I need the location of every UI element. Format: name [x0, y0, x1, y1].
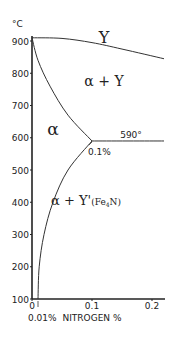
annotation-label: 0.1% [88, 147, 111, 157]
region-label: α + Y [84, 73, 124, 89]
y-axis-label: °C [12, 19, 23, 29]
y-tick-label: 600 [12, 133, 29, 143]
boundary-alpha-solvus [38, 141, 92, 299]
x-tick-label: 0 [29, 301, 35, 311]
y-tick-label: 200 [12, 262, 29, 272]
region-label: α [47, 119, 59, 139]
annotation-label: 0.01% [28, 313, 57, 323]
y-tick-label: 500 [12, 166, 29, 176]
phase-diagram: 100200300400500600700800900°C00.10.2NITR… [0, 0, 177, 337]
annotation-label: 590° [120, 130, 142, 140]
y-tick-label: 900 [12, 37, 29, 47]
x-axis-label: NITROGEN % [62, 313, 121, 323]
region-label: Y [98, 28, 110, 47]
y-tick-label: 300 [12, 230, 29, 240]
y-tick-label: 800 [12, 69, 29, 79]
boundary-alpha-gamma [32, 38, 92, 141]
x-tick-label: 0.2 [145, 301, 159, 311]
x-tick-label: 0.1 [85, 301, 99, 311]
y-tick-label: 700 [12, 101, 29, 111]
region-label: α + Y'(Fe4N) [51, 193, 121, 208]
y-tick-label: 100 [12, 295, 29, 305]
y-tick-label: 400 [12, 198, 29, 208]
